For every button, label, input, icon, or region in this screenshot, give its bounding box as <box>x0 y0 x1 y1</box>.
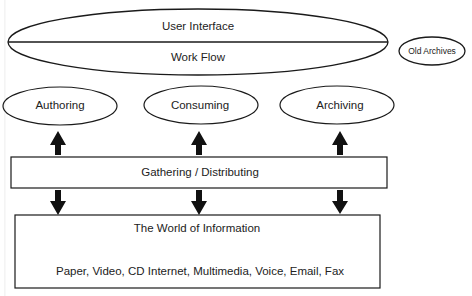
arrow-down-icon <box>191 190 207 215</box>
arrow-up-icon <box>332 131 348 155</box>
user-interface-label: User Interface <box>148 20 248 32</box>
world-of-information-title: The World of Information <box>97 222 297 234</box>
arrow-down-icon <box>332 190 348 214</box>
authoring-label: Authoring <box>10 99 110 111</box>
arrow-up-icon <box>191 131 207 155</box>
archiving-label: Archiving <box>290 99 390 111</box>
media-types-label: Paper, Video, CD Internet, Multimedia, V… <box>40 265 360 277</box>
user-interface-workflow-ellipse <box>8 9 388 75</box>
diagram-canvas <box>0 0 472 296</box>
consuming-label: Consuming <box>150 99 250 111</box>
gathering-distributing-label: Gathering / Distributing <box>100 166 300 178</box>
arrow-up-icon <box>50 131 66 155</box>
arrow-down-icon <box>50 190 66 215</box>
work-flow-label: Work Flow <box>148 51 248 63</box>
old-archives-label: Old Archives <box>400 46 464 56</box>
